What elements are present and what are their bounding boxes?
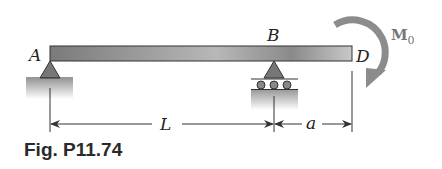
moment-label: M0 [391, 26, 415, 47]
dimension-l: L [51, 114, 273, 134]
point-label-b: B [266, 25, 280, 45]
beam [50, 46, 352, 61]
figure-caption: Fig. P11.74 [24, 139, 122, 161]
point-label-d: D [355, 46, 370, 66]
dimension-label-a: a [306, 113, 316, 133]
point-label-a: A [27, 45, 41, 65]
dimension-label-l: L [159, 114, 171, 134]
dimension-a: a [275, 113, 351, 133]
